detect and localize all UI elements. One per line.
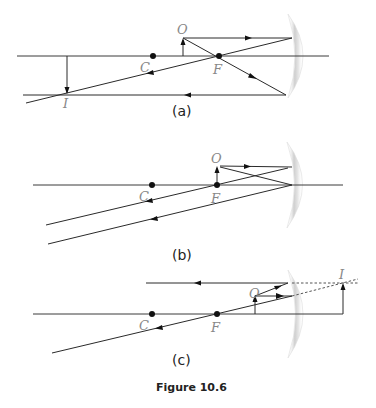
ray-arrowhead: [274, 286, 282, 291]
ray-arrowhead: [155, 325, 163, 330]
ray-arrowhead: [150, 216, 158, 221]
panel-label: (b): [172, 247, 192, 263]
label-o: O: [211, 151, 222, 166]
label-i: I: [338, 267, 345, 282]
ray-arrowhead: [244, 164, 251, 169]
ray-arrowhead: [184, 93, 191, 98]
ray-parallel-incident: [220, 166, 292, 167]
center-of-curvature-point: [150, 53, 156, 59]
ray-reflected-through-focus: [46, 168, 288, 225]
ray-reflected-from-pole: [48, 185, 292, 244]
image-arrowhead: [341, 283, 346, 290]
label-f: F: [212, 62, 223, 77]
focus-point: [214, 311, 220, 317]
label-c: C: [139, 189, 149, 204]
center-of-curvature-point: [149, 182, 155, 188]
virtual-ray-extension: [292, 279, 358, 296]
panel-label: (a): [172, 103, 192, 119]
ray-arrowhead: [248, 73, 257, 79]
center-of-curvature-point: [149, 311, 155, 317]
ray-arrowhead: [194, 281, 201, 286]
label-i: I: [62, 96, 69, 111]
label-f: F: [210, 191, 221, 206]
ray-incident-upper: [255, 283, 288, 296]
ray-reflected-through-focus: [26, 38, 292, 103]
ray-arrowhead: [245, 36, 252, 41]
panel-label: (c): [172, 352, 191, 368]
focus-point: [216, 53, 222, 59]
label-o: O: [177, 22, 188, 37]
panel-c: O C F I (c): [33, 267, 358, 368]
panel-a: O C F I (a): [17, 14, 329, 119]
label-c: C: [140, 60, 150, 75]
label-c: C: [139, 318, 149, 333]
panel-b: O C F (b): [33, 142, 343, 263]
object-arrowhead: [215, 166, 220, 173]
label-o: O: [249, 286, 260, 301]
focus-point: [214, 182, 220, 188]
ray-reflected-through-focus: [52, 296, 292, 353]
optics-figure: O C F I (a) O C F (b): [0, 0, 376, 408]
ray-through-focus-incident: [183, 38, 286, 95]
figure-caption: Figure 10.6: [156, 381, 227, 394]
label-f: F: [210, 320, 221, 335]
